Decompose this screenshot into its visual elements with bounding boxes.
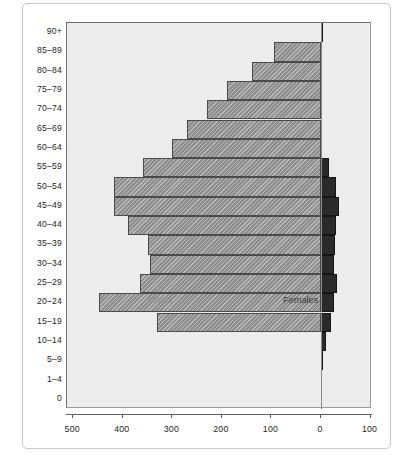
x-axis-tick-label: 400 [102, 424, 142, 434]
bar-male [140, 274, 321, 293]
zero-axis-line [321, 22, 322, 409]
bar-female [321, 216, 336, 235]
x-axis-tick [171, 414, 172, 418]
bar-male [172, 139, 321, 158]
x-axis-tick-label: 300 [151, 424, 191, 434]
bar-male [143, 158, 321, 177]
bar-row [67, 62, 370, 81]
bar-female [321, 293, 334, 312]
x-axis-tick [221, 414, 222, 418]
x-axis-tick [270, 414, 271, 418]
bar-row [67, 177, 370, 196]
bar-row [67, 100, 370, 119]
y-axis-tick-label: 25–29 [0, 277, 62, 287]
bar-row [67, 23, 370, 42]
x-axis-tick-label: 100 [350, 424, 390, 434]
bar-female [321, 158, 329, 177]
bar-row [67, 370, 370, 389]
y-axis-tick-label: 70–74 [0, 103, 62, 113]
series-label-males: Males [148, 295, 173, 305]
bar-female [321, 235, 335, 254]
bar-row [67, 235, 370, 254]
plot-area [66, 22, 371, 408]
bar-female [321, 255, 334, 274]
y-axis-tick-label: 20–24 [0, 296, 62, 306]
bar-row [67, 293, 370, 312]
y-axis-tick-label: 85–89 [0, 45, 62, 55]
bar-row [67, 313, 370, 332]
y-axis-tick-label: 15–19 [0, 316, 62, 326]
x-axis-tick [370, 414, 371, 418]
y-axis-tick-label: 30–34 [0, 258, 62, 268]
bar-row [67, 158, 370, 177]
bar-female [321, 197, 339, 216]
bar-male [252, 62, 321, 81]
bar-row [67, 216, 370, 235]
bar-row [67, 351, 370, 370]
bar-row [67, 332, 370, 351]
bar-male [148, 235, 321, 254]
x-axis-tick-label: 100 [250, 424, 290, 434]
y-axis-labels: 90+85–8980–8475–7970–7465–6960–6455–5950… [0, 22, 62, 408]
y-axis-tick-label: 50–54 [0, 181, 62, 191]
bar-male [157, 313, 321, 332]
x-axis-tick [72, 414, 73, 418]
x-axis-tick [122, 414, 123, 418]
x-axis-tick-label: 200 [201, 424, 241, 434]
bar-male [150, 255, 321, 274]
series-label-females: Females [283, 295, 318, 305]
bar-male [227, 81, 321, 100]
y-axis-tick-label: 60–64 [0, 142, 62, 152]
x-axis-tick-label: 0 [300, 424, 340, 434]
bar-row [67, 81, 370, 100]
bar-row [67, 139, 370, 158]
bar-female [321, 313, 331, 332]
bars-container [67, 23, 370, 407]
y-axis-tick-label: 90+ [0, 26, 62, 36]
bar-row [67, 42, 370, 61]
bar-female [321, 177, 336, 196]
bar-row [67, 197, 370, 216]
bar-male [207, 100, 321, 119]
y-axis-tick-label: 35–39 [0, 238, 62, 248]
y-axis-tick-label: 45–49 [0, 200, 62, 210]
y-axis-tick-label: 80–84 [0, 65, 62, 75]
bar-row [67, 255, 370, 274]
y-axis-tick-label: 0 [0, 393, 62, 403]
bar-male [128, 216, 321, 235]
bar-row [67, 274, 370, 293]
bar-male [114, 177, 321, 196]
y-axis-tick-label: 1–4 [0, 374, 62, 384]
bar-row [67, 120, 370, 139]
bar-male [114, 197, 321, 216]
bar-male [187, 120, 321, 139]
bar-female [321, 274, 337, 293]
y-axis-tick-label: 75–79 [0, 84, 62, 94]
y-axis-tick-label: 5–9 [0, 354, 62, 364]
y-axis-tick-label: 55–59 [0, 161, 62, 171]
y-axis-tick-label: 10–14 [0, 335, 62, 345]
population-pyramid-figure: 90+85–8980–8475–7970–7465–6960–6455–5950… [0, 0, 402, 466]
x-axis-line [66, 414, 372, 415]
bar-male [274, 42, 321, 61]
y-axis-tick-label: 65–69 [0, 123, 62, 133]
x-axis-tick-label: 500 [52, 424, 92, 434]
y-axis-tick-label: 40–44 [0, 219, 62, 229]
bar-row [67, 390, 370, 409]
x-axis-tick [320, 414, 321, 418]
